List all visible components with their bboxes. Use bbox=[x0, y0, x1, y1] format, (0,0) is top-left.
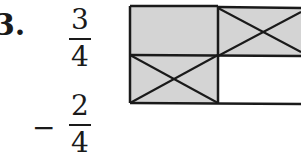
fraction-model-grid bbox=[0, 0, 301, 166]
cell-r0-c0 bbox=[130, 6, 218, 55]
